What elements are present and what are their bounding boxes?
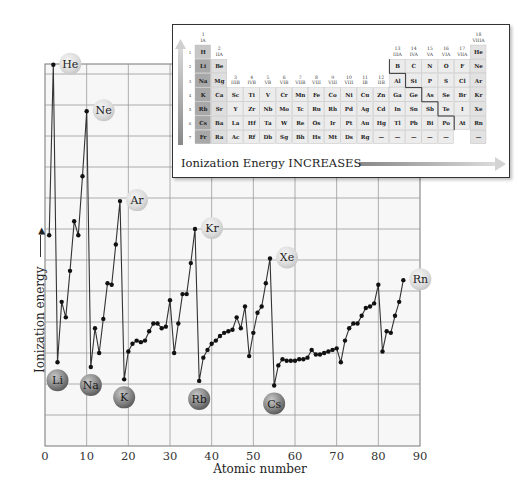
- alkali-metal-label: K: [120, 391, 129, 404]
- group-roman: IIIA: [393, 52, 402, 57]
- alkali-metal-label: Na: [83, 379, 100, 392]
- element-symbol: Sc: [232, 92, 240, 98]
- element-symbol: Si: [411, 78, 417, 84]
- element-symbol: Ru: [312, 106, 321, 112]
- data-point: [339, 360, 343, 364]
- data-point: [255, 311, 259, 315]
- element-symbol: Rb: [199, 106, 208, 112]
- element-symbol: Bi: [426, 120, 433, 126]
- element-symbol: Db: [264, 134, 273, 140]
- data-point: [239, 326, 243, 330]
- group-number: 6: [283, 75, 286, 80]
- noble-gas-label: He: [62, 58, 78, 71]
- element-symbol: N: [427, 63, 432, 69]
- data-point: [330, 348, 334, 352]
- data-point: [201, 355, 205, 359]
- group-number: 15: [427, 46, 433, 51]
- element-symbol: Cd: [377, 106, 385, 112]
- data-point: [251, 331, 255, 335]
- x-tick-label: 50: [246, 449, 261, 463]
- group-number: 4: [250, 75, 253, 80]
- y-axis-arrow-head-icon: ▶: [36, 228, 46, 235]
- up-arrow-head-icon: [175, 39, 186, 49]
- element-symbol: Mg: [214, 78, 224, 85]
- data-point: [305, 355, 309, 359]
- group-roman: VIIA: [456, 52, 468, 57]
- element-symbol: Hs: [312, 134, 320, 140]
- group-number: 7: [299, 75, 302, 80]
- element-symbol: Ga: [393, 92, 402, 98]
- element-symbol: Ni: [345, 92, 352, 98]
- group-number: 14: [411, 46, 417, 51]
- data-point: [264, 281, 268, 285]
- element-symbol: —: [476, 134, 482, 140]
- data-point: [268, 256, 272, 260]
- data-point: [222, 331, 226, 335]
- x-tick-label: 60: [288, 449, 303, 463]
- x-tick-label: 20: [121, 449, 136, 463]
- element-symbol: Tc: [297, 106, 305, 112]
- element-symbol: Nb: [263, 106, 272, 112]
- element-symbol: Po: [442, 120, 450, 126]
- inset-caption: Ionization Energy INCREASES: [181, 156, 361, 170]
- data-point: [301, 357, 305, 361]
- element-symbol: Zn: [377, 92, 385, 98]
- element-symbol: H: [200, 49, 206, 55]
- period-number: 3: [189, 79, 192, 84]
- data-point: [193, 227, 197, 231]
- noble-gas-label: Rn: [413, 273, 428, 286]
- y-axis-label: Ionization energy ▶: [33, 233, 47, 373]
- group-number: 2: [218, 46, 221, 51]
- data-point: [318, 352, 322, 356]
- y-axis-label-text: Ionization energy: [33, 266, 47, 373]
- noble-gas-label: Ar: [129, 194, 144, 207]
- data-point: [322, 351, 326, 355]
- element-symbol: Os: [312, 120, 320, 126]
- data-point: [401, 278, 405, 282]
- element-symbol: Cr: [280, 92, 287, 98]
- element-symbol: Sb: [426, 106, 434, 112]
- data-point: [280, 357, 284, 361]
- element-symbol: —: [379, 134, 385, 140]
- group-roman: IIIB: [231, 80, 240, 85]
- data-point: [326, 349, 330, 353]
- data-point: [343, 338, 347, 342]
- data-point: [93, 326, 97, 330]
- data-point: [218, 334, 222, 338]
- element-symbol: Sg: [280, 134, 288, 141]
- data-point: [118, 199, 122, 203]
- data-point: [72, 219, 76, 223]
- right-arrow-head-icon: [495, 157, 506, 171]
- group-number: 3: [234, 75, 237, 80]
- group-roman: VIII: [327, 80, 337, 85]
- element-symbol: Cs: [199, 120, 207, 126]
- data-point: [89, 365, 93, 369]
- data-point: [126, 349, 130, 353]
- data-point: [384, 329, 388, 333]
- element-symbol: In: [394, 106, 401, 112]
- data-point: [184, 292, 188, 296]
- element-symbol: W: [280, 120, 288, 126]
- element-symbol: Hf: [248, 120, 256, 126]
- element-symbol: —: [395, 134, 401, 140]
- data-point: [389, 331, 393, 335]
- element-symbol: Rn: [474, 120, 483, 126]
- data-point: [334, 346, 338, 350]
- period-number: 7: [189, 135, 192, 140]
- group-roman: VIA: [441, 52, 451, 57]
- element-symbol: Pt: [346, 120, 353, 126]
- data-point: [101, 317, 105, 321]
- element-symbol: Ar: [474, 78, 482, 84]
- group-roman: VIIB: [294, 80, 306, 85]
- group-number: 5: [266, 75, 269, 80]
- element-symbol: Ra: [215, 134, 224, 140]
- group-roman: IB: [362, 80, 368, 85]
- element-symbol: Cu: [361, 92, 370, 98]
- group-number: 1: [202, 32, 205, 37]
- data-point: [51, 62, 55, 66]
- element-symbol: V: [265, 92, 271, 98]
- data-point: [55, 360, 59, 364]
- data-point: [80, 174, 84, 178]
- group-roman: VIII: [311, 80, 321, 85]
- data-point: [64, 315, 68, 319]
